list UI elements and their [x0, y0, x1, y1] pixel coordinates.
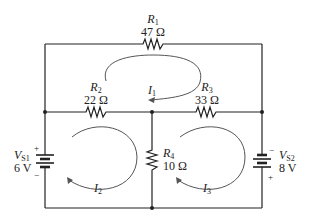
- top-wire: [45, 39, 262, 49]
- r1-value: 47 Ω: [134, 26, 172, 38]
- loop-i2-arrow-icon: [69, 127, 137, 190]
- r2-name: R: [90, 80, 97, 94]
- loop-i3-arrow-icon: [178, 127, 245, 190]
- middle-wire-right: [152, 107, 262, 117]
- r4-value: 10 Ω: [163, 160, 187, 172]
- r3-name: R: [201, 80, 208, 94]
- i2-label: I2: [94, 182, 102, 198]
- vs2-plus: +: [268, 171, 273, 183]
- center-wire: [147, 112, 157, 208]
- r3-value: 33 Ω: [189, 94, 225, 106]
- vs2-minus: −: [269, 144, 274, 156]
- i1-label: I1: [148, 84, 156, 100]
- vs1-minus: −: [34, 169, 39, 181]
- battery-vs1-icon: [36, 155, 54, 167]
- r1-name: R: [147, 12, 154, 26]
- vs2-value: 8 V: [279, 162, 296, 174]
- vs1-value: 6 V: [14, 162, 31, 174]
- i3-sub: 3: [207, 187, 211, 196]
- i2-sub: 2: [98, 187, 102, 196]
- vs1-plus: +: [34, 142, 39, 154]
- r2-value: 22 Ω: [78, 94, 114, 106]
- battery-vs2-icon: [253, 155, 271, 167]
- i3-label: I3: [203, 182, 211, 198]
- middle-wire-left: [45, 107, 152, 117]
- i1-sub: 1: [152, 89, 156, 98]
